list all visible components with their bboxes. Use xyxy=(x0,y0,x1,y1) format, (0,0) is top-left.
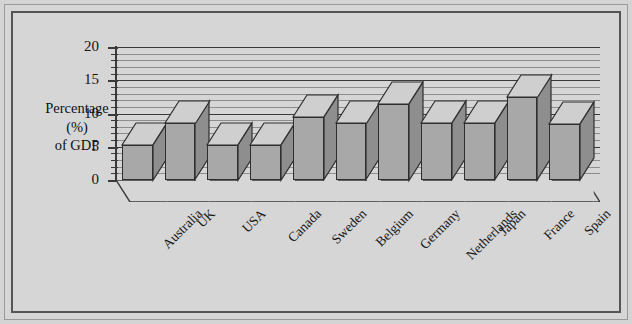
bar-base-wedge-wrap xyxy=(421,180,468,204)
bar-top-face-wrap xyxy=(293,95,340,119)
bar-germany[interactable] xyxy=(378,47,409,202)
bar-base-wedge-wrap xyxy=(207,180,254,204)
bar-base-wedge xyxy=(580,180,594,202)
bar-top-face-wrap xyxy=(250,123,297,147)
bar-top-face xyxy=(336,101,381,123)
bar-front-face xyxy=(421,123,452,180)
bar-front-face xyxy=(165,123,196,180)
bar-base-wedge-wrap xyxy=(250,180,297,204)
bar-belgium[interactable] xyxy=(336,47,367,202)
y-tick-label: 0 xyxy=(23,172,99,187)
bar-top-face-wrap xyxy=(421,101,468,125)
bar-top-face xyxy=(378,82,423,104)
y-axis-tick-labels: 05101520 xyxy=(13,13,116,213)
bar-top-face xyxy=(165,101,210,123)
bar-base-wedge-wrap xyxy=(507,180,554,204)
bar-top-face xyxy=(549,102,594,124)
bar-top-face-wrap xyxy=(507,75,554,99)
bar-top-face-wrap xyxy=(336,101,383,125)
bar-top-face-wrap xyxy=(464,101,511,125)
bar-front-face xyxy=(507,97,538,180)
bar-front-face xyxy=(122,145,153,180)
y-tick-label: 15 xyxy=(23,72,99,87)
bar-canada[interactable] xyxy=(250,47,281,202)
bar-top-face xyxy=(250,123,295,145)
bar-base-wedge-wrap xyxy=(336,180,383,204)
bar-base-wedge-wrap xyxy=(122,180,169,204)
bar-netherlands[interactable] xyxy=(421,47,452,202)
bar-top-face xyxy=(207,123,252,145)
chart-figure: Percentage (%) of GDP 05101520 Australia… xyxy=(0,0,632,324)
x-tick-label-france: France xyxy=(540,206,577,243)
bar-uk[interactable] xyxy=(165,47,196,202)
bar-top-face-wrap xyxy=(207,123,254,147)
bar-base-wedge-wrap xyxy=(293,180,340,204)
bar-base-wedge-wrap xyxy=(464,180,511,204)
bar-base-wedge-wrap xyxy=(165,180,212,204)
bar-front-face xyxy=(207,145,238,180)
y-tick-label: 20 xyxy=(23,39,99,54)
bar-france[interactable] xyxy=(507,47,538,202)
figure-inner-border: Percentage (%) of GDP 05101520 Australia… xyxy=(11,11,621,313)
bar-front-face xyxy=(293,117,324,180)
bar-front-face xyxy=(336,123,367,180)
bar-top-face-wrap xyxy=(378,82,425,106)
x-tick-label-usa: USA xyxy=(239,206,269,236)
x-tick-label-spain: Spain xyxy=(581,206,614,239)
x-tick-label-belgium: Belgium xyxy=(372,206,416,250)
x-tick-label-sweden: Sweden xyxy=(329,206,371,248)
bar-spain[interactable] xyxy=(549,47,580,202)
bar-top-face-wrap xyxy=(122,123,169,147)
bar-top-face-wrap xyxy=(549,102,596,126)
bar-top-face xyxy=(507,75,552,97)
bar-front-face xyxy=(378,104,409,180)
bar-usa[interactable] xyxy=(207,47,238,202)
y-tick-label: 10 xyxy=(23,106,99,121)
bar-top-face xyxy=(421,101,466,123)
bar-japan[interactable] xyxy=(464,47,495,202)
bar-base-wedge-wrap xyxy=(378,180,425,204)
bar-front-face xyxy=(250,145,281,180)
bar-base-wedge-wrap xyxy=(549,180,596,204)
x-tick-label-germany: Germany xyxy=(416,206,463,253)
bar-front-face xyxy=(549,124,580,180)
x-axis-category-labels: AustraliaUKUSACanadaSwedenBelgiumGermany… xyxy=(116,204,632,314)
bar-top-face xyxy=(293,95,338,117)
x-tick-label-canada: Canada xyxy=(285,206,325,246)
bar-sweden[interactable] xyxy=(293,47,324,202)
bar-series xyxy=(116,47,600,206)
bar-australia[interactable] xyxy=(122,47,153,202)
bar-top-face-wrap xyxy=(165,101,212,125)
bar-top-face xyxy=(122,123,167,145)
bar-top-face xyxy=(464,101,509,123)
bar-front-face xyxy=(464,123,495,180)
y-tick-label: 5 xyxy=(23,139,99,154)
